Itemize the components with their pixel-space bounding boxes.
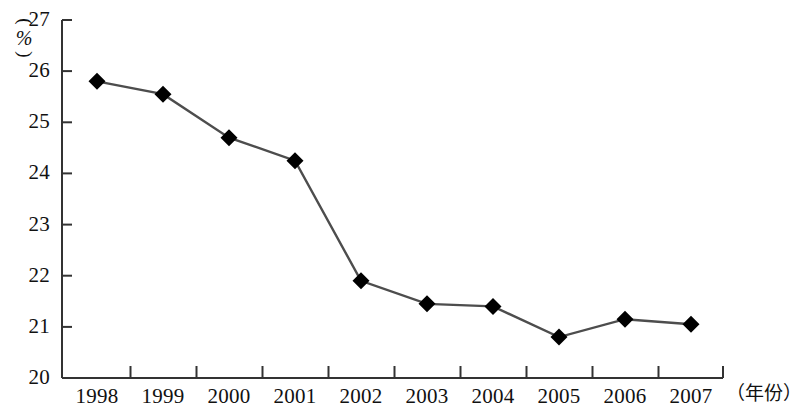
data-point-2000 xyxy=(221,129,238,146)
x-tick-label-2007: 2007 xyxy=(651,386,731,407)
data-point-1999 xyxy=(155,86,172,103)
data-point-2007 xyxy=(683,316,700,333)
y-tick-label-25: 25 xyxy=(6,111,50,132)
data-point-2006 xyxy=(617,311,634,328)
y-tick-label-22: 22 xyxy=(6,265,50,286)
data-point-1998 xyxy=(89,73,106,90)
y-axis-ticks xyxy=(62,71,72,327)
y-tick-label-20: 20 xyxy=(6,367,50,388)
line-chart: ( % ) 2021222324252627 19981999200020012… xyxy=(0,0,795,411)
y-tick-label-23: 23 xyxy=(6,214,50,235)
x-axis-unit-label: （年份） xyxy=(726,384,795,403)
data-point-2002 xyxy=(353,272,370,289)
data-series-line xyxy=(97,81,691,337)
y-unit-percent-symbol: % xyxy=(16,28,33,48)
data-point-2003 xyxy=(419,295,436,312)
y-tick-label-21: 21 xyxy=(6,316,50,337)
x-axis-ticks xyxy=(131,366,659,378)
y-tick-label-26: 26 xyxy=(6,60,50,81)
y-tick-label-24: 24 xyxy=(6,162,50,183)
y-unit-paren-close: ) xyxy=(17,51,30,57)
data-point-2004 xyxy=(485,298,502,315)
data-point-2005 xyxy=(551,329,568,346)
chart-canvas xyxy=(0,0,795,411)
data-point-markers xyxy=(89,73,700,346)
data-point-2001 xyxy=(287,152,304,169)
y-tick-label-27: 27 xyxy=(6,9,50,30)
